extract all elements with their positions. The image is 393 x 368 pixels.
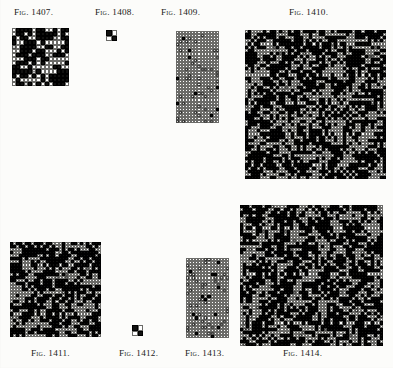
fig-1407-label: Fig. 1407. xyxy=(14,7,53,17)
pattern-cell xyxy=(302,331,305,334)
fig-1412-label: Fig. 1412. xyxy=(119,348,158,358)
pattern-cell xyxy=(176,120,179,123)
pattern-cell xyxy=(282,89,285,92)
pattern-cell xyxy=(185,68,188,71)
pattern-cell xyxy=(211,332,214,335)
pattern-cell xyxy=(210,89,213,92)
plate-page: Fig. 1407.Fig. 1408.Fig. 1409.Fig. 1410.… xyxy=(0,0,393,368)
pattern-cell xyxy=(176,43,179,46)
pattern-cell xyxy=(355,309,358,312)
pattern-cell xyxy=(197,114,200,117)
pattern-cell xyxy=(331,42,334,45)
pattern-cell xyxy=(185,40,188,43)
fig-1411-grid xyxy=(10,242,101,337)
pattern-cell xyxy=(98,334,101,337)
pattern-cell xyxy=(265,223,268,226)
pattern-cell xyxy=(287,260,290,263)
pattern-cell xyxy=(349,334,352,337)
pattern-cell xyxy=(220,323,223,326)
pattern-cell xyxy=(293,239,296,242)
pattern-cell xyxy=(198,313,201,316)
pattern-cell xyxy=(343,80,346,83)
fig-1413-grid xyxy=(186,258,229,338)
pattern-cell xyxy=(197,83,200,86)
pattern-cell xyxy=(37,254,40,257)
pattern-cell xyxy=(112,36,118,42)
pattern-cell xyxy=(32,69,36,73)
pattern-cell xyxy=(380,315,383,318)
pattern-cell xyxy=(201,286,204,289)
pattern-cell xyxy=(226,335,229,338)
pattern-cell xyxy=(182,120,185,123)
pattern-cell xyxy=(220,276,223,279)
pattern-cell xyxy=(322,154,325,157)
pattern-cell xyxy=(358,98,361,101)
pattern-cell xyxy=(377,39,380,42)
pattern-cell xyxy=(204,95,207,98)
pattern-cell xyxy=(191,62,194,65)
pattern-cell xyxy=(211,326,214,329)
fig-1413-label: Fig. 1413. xyxy=(185,348,224,358)
fig-1408-label: Fig. 1408. xyxy=(95,7,134,17)
pattern-cell xyxy=(198,267,201,270)
fig-1414-label: Fig. 1414. xyxy=(283,348,322,358)
pattern-cell xyxy=(62,291,65,294)
pattern-cell xyxy=(343,263,346,266)
pattern-cell xyxy=(262,230,265,233)
pattern-cell xyxy=(188,77,191,80)
pattern-cell xyxy=(65,276,68,279)
pattern-cell xyxy=(16,316,19,319)
pattern-cell xyxy=(194,40,197,43)
pattern-cell xyxy=(207,258,210,261)
fig-1410-label: Fig. 1410. xyxy=(289,7,328,17)
pattern-cell xyxy=(194,59,197,62)
pattern-cell xyxy=(188,37,191,40)
pattern-cell xyxy=(371,55,374,58)
pattern-cell xyxy=(226,310,229,313)
pattern-cell xyxy=(36,45,40,49)
pattern-cell xyxy=(274,312,277,315)
pattern-cell xyxy=(380,214,383,217)
pattern-cell xyxy=(324,328,327,331)
pattern-cell xyxy=(380,257,383,260)
pattern-cell xyxy=(86,267,89,270)
pattern-cell xyxy=(291,163,294,166)
pattern-cell xyxy=(282,30,285,33)
pattern-cell xyxy=(243,321,246,324)
pattern-cell xyxy=(189,289,192,292)
pattern-cell xyxy=(217,283,220,286)
pattern-cell xyxy=(216,56,219,59)
pattern-cell xyxy=(290,248,293,251)
pattern-cell xyxy=(279,52,282,55)
pattern-cell xyxy=(299,211,302,214)
pattern-cell xyxy=(268,285,271,288)
pattern-cell xyxy=(249,248,252,251)
pattern-cell xyxy=(273,46,276,49)
pattern-cell xyxy=(49,53,53,57)
pattern-cell xyxy=(306,114,309,117)
pattern-cell xyxy=(186,283,189,286)
pattern-cell xyxy=(201,34,204,37)
pattern-cell xyxy=(300,157,303,160)
pattern-cell xyxy=(257,92,260,95)
fig-1411-label: Fig. 1411. xyxy=(31,348,70,358)
pattern-cell xyxy=(374,46,377,49)
pattern-cell xyxy=(204,108,207,111)
pattern-cell xyxy=(138,331,144,337)
pattern-cell xyxy=(179,49,182,52)
pattern-cell xyxy=(256,306,259,309)
fig-1410-grid xyxy=(245,30,386,179)
pattern-cell xyxy=(285,86,288,89)
pattern-cell xyxy=(195,280,198,283)
pattern-cell xyxy=(37,263,40,266)
pattern-cell xyxy=(309,95,312,98)
pattern-cell xyxy=(186,292,189,295)
pattern-cell xyxy=(68,312,71,315)
pattern-cell xyxy=(197,77,200,80)
pattern-cell xyxy=(346,111,349,114)
fig-1409-grid xyxy=(176,31,219,123)
pattern-cell xyxy=(210,68,213,71)
pattern-cell xyxy=(216,120,219,123)
pattern-cell xyxy=(223,320,226,323)
pattern-cell xyxy=(192,323,195,326)
